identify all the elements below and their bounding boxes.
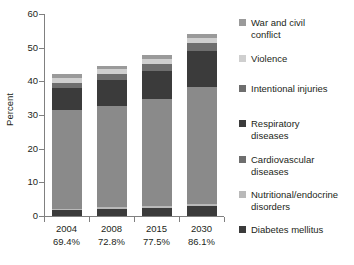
legend-label: Nutritional/endocrine disorders [251, 189, 338, 212]
bar-segment[interactable] [97, 209, 127, 216]
x-category-year: 2015 [134, 222, 180, 235]
bar-segment[interactable] [52, 110, 82, 209]
bar-segment[interactable] [142, 99, 172, 206]
x-category-year: 2004 [44, 222, 90, 235]
y-tick-label: 40 [10, 76, 38, 85]
cropped-title-remnant [96, 0, 246, 5]
bar-2008[interactable] [97, 66, 127, 216]
y-tick-mark [39, 48, 44, 49]
x-category-2015: 201577.5% [134, 222, 180, 249]
x-category-2030: 203086.1% [179, 222, 225, 249]
bar-2015[interactable] [142, 55, 172, 216]
x-category-percent: 86.1% [179, 235, 225, 249]
y-tick-mark [39, 182, 44, 183]
y-tick-label: 60 [10, 9, 38, 18]
y-tick-label: 10 [10, 177, 38, 186]
x-category-2008: 200872.8% [89, 222, 135, 249]
plot-area: 0102030405060 [44, 14, 224, 217]
y-tick-label: 20 [10, 144, 38, 153]
legend-label: Violence [251, 53, 287, 65]
x-category-year: 2030 [179, 222, 225, 235]
legend-label: Intentional injuries [251, 83, 328, 95]
bar-segment[interactable] [187, 51, 217, 87]
legend-item[interactable]: Intentional injuries [239, 83, 328, 95]
legend-label: War and civil conflict [251, 17, 305, 40]
legend-item[interactable]: Violence [239, 53, 287, 65]
legend-item[interactable]: Respiratory diseases [239, 118, 300, 141]
y-tick-label: 30 [10, 110, 38, 119]
legend-label: Cardiovascular diseases [251, 154, 314, 177]
y-axis-line [44, 14, 45, 217]
bar-segment[interactable] [142, 208, 172, 216]
bar-segment[interactable] [97, 80, 127, 106]
bar-segment[interactable] [187, 43, 217, 51]
x-category-percent: 69.4% [44, 235, 90, 249]
legend-item[interactable]: Cardiovascular diseases [239, 154, 314, 177]
legend-swatch-icon [239, 120, 246, 127]
bar-segment[interactable] [97, 106, 127, 207]
legend-swatch-icon [239, 19, 246, 26]
y-tick-label: 0 [10, 211, 38, 220]
bar-segment[interactable] [187, 206, 217, 216]
x-category-percent: 72.8% [89, 235, 135, 249]
x-category-percent: 77.5% [134, 235, 180, 249]
y-tick-mark [39, 115, 44, 116]
stacked-bar-chart-figure: Percent 0102030405060 200469.4%200872.8%… [0, 0, 354, 265]
bar-segment[interactable] [142, 64, 172, 71]
x-axis-categories: 200469.4%200872.8%201577.5%203086.1% [44, 222, 224, 262]
bar-2004[interactable] [52, 74, 82, 216]
legend-swatch-icon [239, 191, 246, 198]
legend-swatch-icon [239, 226, 246, 233]
legend-item[interactable]: Diabetes mellitus [239, 224, 323, 236]
y-tick-mark [39, 81, 44, 82]
bar-segment[interactable] [52, 88, 82, 110]
y-tick-label: 50 [10, 43, 38, 52]
legend-swatch-icon [239, 85, 246, 92]
y-tick-mark [39, 149, 44, 150]
legend-label: Diabetes mellitus [251, 224, 323, 236]
bar-segment[interactable] [52, 210, 82, 216]
bar-segment[interactable] [187, 87, 217, 204]
legend-item[interactable]: Nutritional/endocrine disorders [239, 189, 338, 212]
legend-item[interactable]: War and civil conflict [239, 17, 305, 40]
legend-label: Respiratory diseases [251, 118, 300, 141]
y-tick-mark [39, 14, 44, 15]
bar-segment[interactable] [142, 71, 172, 99]
legend-swatch-icon [239, 55, 246, 62]
x-category-2004: 200469.4% [44, 222, 90, 249]
x-category-year: 2008 [89, 222, 135, 235]
bar-2030[interactable] [187, 34, 217, 216]
legend-swatch-icon [239, 156, 246, 163]
